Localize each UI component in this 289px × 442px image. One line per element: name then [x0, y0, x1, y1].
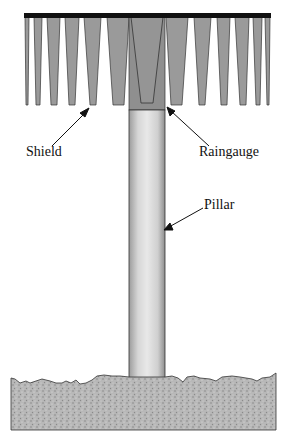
ground [11, 373, 276, 430]
label-pillar: Pillar [204, 197, 234, 213]
raingauge-installation-diagram [0, 0, 289, 442]
raingauge [129, 14, 165, 110]
shield-top-bar [24, 13, 271, 18]
label-shield: Shield [26, 144, 62, 160]
pillar [129, 110, 165, 378]
label-raingauge: Raingauge [199, 144, 259, 160]
